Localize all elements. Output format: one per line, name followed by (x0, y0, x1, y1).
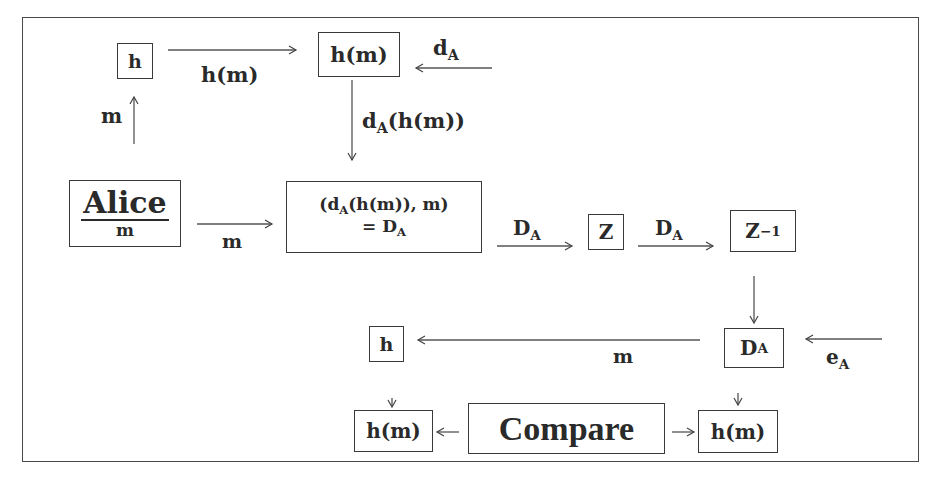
edge-label-da-to-h: m (613, 347, 633, 366)
edge-label-pair-to-z: DA (513, 218, 541, 242)
node-z-inverse: Z−1 (730, 210, 796, 252)
edge-label-h-to-hm: h(m) (201, 64, 258, 85)
node-hash-value-left-label: h(m) (366, 419, 421, 443)
node-compare-label: Compare (499, 410, 634, 448)
node-alice: Alice m (69, 180, 181, 247)
node-hash-value-top-label: h(m) (330, 42, 387, 67)
node-hash-bottom: h (369, 326, 404, 362)
node-hash-value-left: h(m) (354, 410, 433, 452)
node-z-label: Z (599, 220, 614, 244)
edge-label-z-to-zinv: DA (655, 218, 683, 242)
alice-message: m (116, 222, 134, 239)
node-hash-top: h (117, 43, 153, 79)
node-hash-bottom-label: h (380, 333, 394, 355)
node-compare: Compare (468, 403, 665, 454)
node-hash-value-top: h(m) (318, 32, 400, 77)
node-hash-value-right: h(m) (698, 410, 778, 453)
signed-pair-line1: (dA(h(m)), m) (319, 195, 448, 217)
alice-name: Alice (81, 188, 168, 221)
node-da-bottom: DA (724, 328, 784, 368)
edge-label-da-into-hm: dA (433, 37, 459, 62)
edge-label-hm-down: dA(h(m)) (362, 110, 465, 135)
edge-label-ea-into-da: eA (826, 347, 849, 371)
node-hash-value-right-label: h(m) (711, 420, 766, 444)
signed-pair-line2: = DA (362, 217, 406, 239)
node-hash-top-label: h (128, 50, 142, 72)
edge-label-m-up: m (101, 106, 122, 126)
node-z: Z (588, 214, 624, 250)
node-signed-pair: (dA(h(m)), m) = DA (286, 181, 482, 253)
edge-label-alice-to-pair: m (222, 232, 242, 251)
